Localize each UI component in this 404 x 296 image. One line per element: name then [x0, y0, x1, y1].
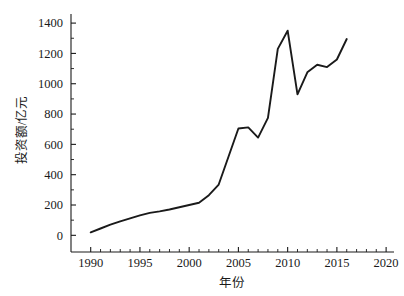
y-tick-label-200: 200 — [44, 198, 63, 212]
x-tick-label-2020: 2020 — [374, 256, 399, 270]
x-tick-label-1990: 1990 — [78, 256, 103, 270]
y-tick-label-1000: 1000 — [38, 77, 63, 91]
line-chart-figure: 0200400600800100012001400 19901995200020… — [0, 0, 404, 296]
y-tick-label-1400: 1400 — [38, 16, 63, 30]
x-tick-label-2010: 2010 — [275, 256, 300, 270]
data-series-line — [91, 31, 347, 233]
y-tick-label-400: 400 — [44, 168, 63, 182]
y-axis-tick-labels: 0200400600800100012001400 — [38, 16, 63, 242]
x-axis-tick-labels: 1990199520002005201020152020 — [78, 256, 398, 270]
y-tick-label-600: 600 — [44, 138, 63, 152]
y-tick-label-800: 800 — [44, 107, 63, 121]
x-axis-title: 年份 — [219, 276, 245, 290]
x-tick-label-2005: 2005 — [226, 256, 251, 270]
y-tick-label-1200: 1200 — [38, 47, 63, 61]
plot-area: 0200400600800100012001400 19901995200020… — [38, 14, 399, 270]
y-axis-title: 投资额/亿元 — [14, 96, 29, 164]
x-tick-label-1995: 1995 — [127, 256, 152, 270]
x-axis-ticks — [91, 247, 386, 252]
x-tick-label-2015: 2015 — [324, 256, 349, 270]
x-tick-label-2000: 2000 — [177, 256, 202, 270]
y-tick-label-0: 0 — [57, 229, 63, 243]
chart-canvas: 0200400600800100012001400 19901995200020… — [0, 0, 404, 296]
